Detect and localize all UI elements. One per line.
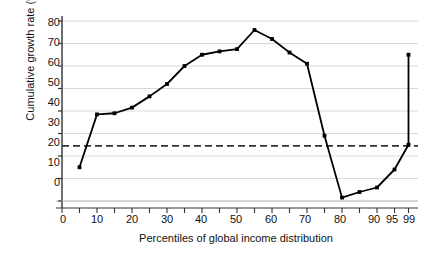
x-axis-ticks [62,208,409,213]
chart-container: Cumulative growth rate (%) Percentiles o… [0,0,430,254]
axis-lines [56,16,418,208]
gridlines [62,21,418,201]
data-point-markers [78,28,411,199]
data-series-line [80,30,409,198]
chart-svg [0,0,430,254]
